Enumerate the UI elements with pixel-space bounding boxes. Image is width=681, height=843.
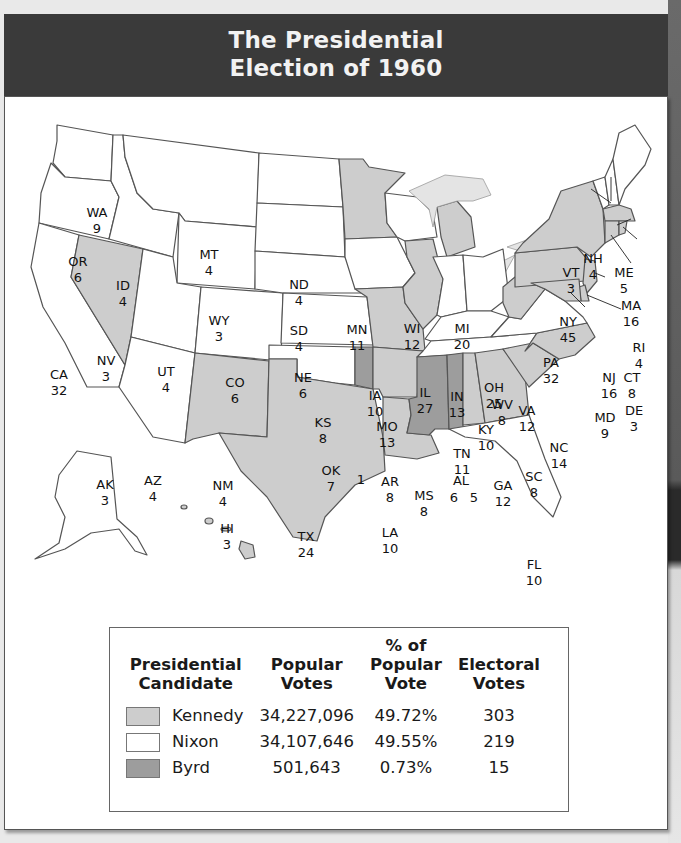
state-OK-byrd[interactable] [355, 347, 373, 389]
state-NY[interactable] [515, 181, 605, 257]
map-panel: WA9 OR6 CA32 ID4 NV3 MT4 WY3 UT4 CO6 AZ4… [4, 96, 668, 830]
label-RI: RI4 [633, 340, 646, 371]
state-IA[interactable] [345, 237, 415, 289]
results-legend-table: PresidentialCandidate PopularVotes % ofP… [109, 627, 569, 812]
label-GA: GA12 [494, 478, 513, 509]
label-NC: NC14 [550, 440, 569, 471]
label-MN: MN11 [347, 322, 368, 353]
state-ND[interactable] [257, 153, 343, 207]
label-CT: CT8 [623, 370, 640, 401]
label-CA: CA32 [50, 367, 68, 398]
candidate-name: Kennedy [172, 706, 243, 725]
label-ME: ME5 [614, 265, 633, 296]
label-OK-byrd: 1 [357, 472, 365, 487]
header-electoral-votes: ElectoralVotes [450, 636, 548, 703]
byrd-swatch [126, 759, 160, 778]
table-row-nixon: Nixon 34,107,646 49.55% 219 [120, 729, 548, 755]
map-title: The Presidential Election of 1960 [4, 14, 668, 96]
title-line-2: Election of 1960 [4, 54, 668, 82]
label-IN: IN13 [449, 389, 466, 420]
label-AL-kennedy-ev: 5 [470, 490, 478, 505]
electoral-votes: 219 [450, 729, 548, 755]
state-OH[interactable] [463, 249, 509, 311]
label-LA: LA10 [382, 525, 399, 556]
page-edge [668, 0, 681, 843]
state-MA[interactable] [603, 205, 635, 221]
state-MI[interactable] [437, 201, 475, 257]
label-AR: AR8 [381, 474, 399, 505]
label-KY: KY10 [478, 422, 495, 453]
popular-votes: 34,227,096 [251, 703, 361, 729]
state-NM[interactable] [185, 353, 269, 443]
label-NJ: NJ16 [601, 370, 618, 401]
popular-votes: 501,643 [251, 755, 361, 781]
header-percent-popular: % ofPopularVote [362, 636, 450, 703]
us-election-map: WA9 OR6 CA32 ID4 NV3 MT4 WY3 UT4 CO6 AZ4… [5, 97, 667, 617]
header-candidate: PresidentialCandidate [120, 636, 251, 703]
state-CT[interactable] [605, 221, 619, 243]
label-WI: WI12 [404, 321, 421, 352]
state-ME[interactable] [613, 125, 651, 205]
label-VA: VA12 [519, 403, 536, 434]
table-row-kennedy: Kennedy 34,227,096 49.72% 303 [120, 703, 548, 729]
label-MA: MA16 [621, 298, 641, 329]
label-MD: MD9 [594, 410, 615, 441]
label-NY: NY45 [559, 314, 577, 345]
electoral-votes: 15 [450, 755, 548, 781]
label-MI: MI20 [454, 321, 471, 352]
label-HI: HI3 [220, 521, 234, 552]
nixon-swatch [126, 733, 160, 752]
label-DE: DE3 [625, 403, 643, 434]
state-AK[interactable] [35, 451, 147, 559]
label-AL-byrd-ev: 6 [450, 490, 458, 505]
label-NM: NM4 [213, 478, 234, 509]
electoral-votes: 303 [450, 703, 548, 729]
kennedy-swatch [126, 707, 160, 726]
popular-votes: 34,107,646 [251, 729, 361, 755]
state-HI[interactable] [181, 505, 255, 559]
candidate-name: Nixon [172, 732, 219, 751]
label-MO: MO13 [376, 419, 397, 450]
label-AZ: AZ4 [144, 473, 162, 504]
state-RI[interactable] [619, 221, 627, 235]
label-PA: PA32 [543, 355, 560, 386]
header-popular-votes: PopularVotes [251, 636, 361, 703]
state-SD[interactable] [255, 203, 345, 257]
label-FL: FL10 [526, 557, 543, 588]
percent-vote: 49.72% [362, 703, 450, 729]
percent-vote: 49.55% [362, 729, 450, 755]
label-AL: AL [453, 473, 470, 488]
percent-vote: 0.73% [362, 755, 450, 781]
state-AZ[interactable] [119, 337, 195, 443]
candidate-name: Byrd [172, 758, 210, 777]
table-row-byrd: Byrd 501,643 0.73% 15 [120, 755, 548, 781]
label-TX: TX24 [297, 529, 315, 560]
label-IA: IA10 [367, 388, 384, 419]
label-MS: MS8 [414, 488, 433, 519]
state-WA[interactable] [53, 125, 113, 181]
title-line-1: The Presidential [4, 26, 668, 54]
